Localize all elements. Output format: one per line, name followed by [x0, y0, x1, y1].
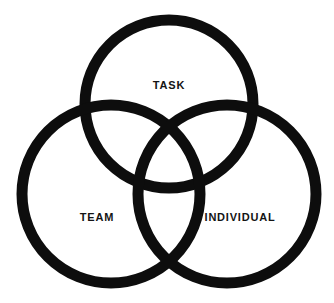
venn-label-team: TEAM [80, 212, 114, 223]
venn-diagram-canvas [0, 0, 334, 303]
venn-circle-team[interactable] [22, 105, 200, 283]
venn-label-individual: INDIVIDUAL [205, 212, 276, 223]
venn-label-task: TASK [153, 80, 185, 91]
venn-circle-individual[interactable] [138, 105, 316, 283]
venn-diagram: TASK TEAM INDIVIDUAL [0, 0, 334, 303]
